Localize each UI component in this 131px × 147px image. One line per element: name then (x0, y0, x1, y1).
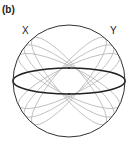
sphere-diagram (0, 0, 131, 147)
pole-point-bottom (68, 93, 70, 95)
great-circle (16, 35, 121, 126)
great-circle (16, 35, 121, 126)
great-circle (13, 44, 126, 118)
great-circle (22, 29, 115, 133)
equator-ellipse (13, 68, 125, 94)
great-circle (13, 44, 126, 118)
pole-point-top (68, 67, 70, 69)
sphere-outline (13, 25, 125, 137)
great-circles (13, 29, 126, 133)
great-circle (22, 29, 115, 133)
